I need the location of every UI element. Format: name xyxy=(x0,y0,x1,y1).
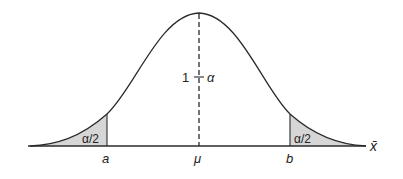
axis-label-xbar: x̄ xyxy=(369,138,378,154)
left-tail-label: α/2 xyxy=(82,132,99,146)
normal-distribution-diagram: 1 α α/2 α/2 a μ b x̄ xyxy=(0,0,403,179)
lower-bound-label: a xyxy=(102,151,109,166)
right-tail-label: α/2 xyxy=(294,132,311,146)
center-area-label-alpha: α xyxy=(207,70,215,85)
bell-curve xyxy=(30,13,366,146)
center-area-label-one: 1 xyxy=(182,70,189,85)
mean-label: μ xyxy=(193,151,201,166)
upper-bound-label: b xyxy=(286,151,293,166)
